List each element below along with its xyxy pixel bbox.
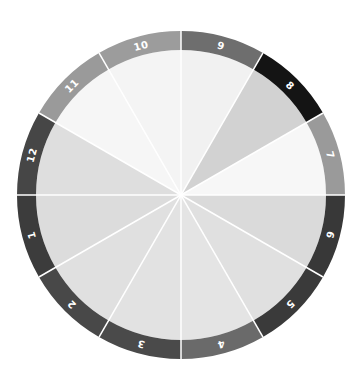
segmented-wheel: 789101112123456: [0, 0, 358, 385]
